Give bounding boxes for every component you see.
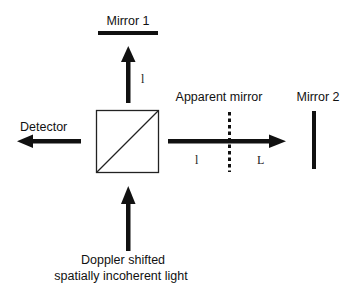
detector-label: Detector (20, 120, 67, 134)
arrow-to-mirror-2 (168, 135, 286, 149)
apparent-mirror: Apparent mirror (176, 90, 263, 172)
beam-splitter (97, 111, 159, 173)
mirror-2: Mirror 2 (296, 90, 339, 169)
apparent-mirror-label: Apparent mirror (176, 90, 263, 104)
arrow-to-detector: Detector (17, 120, 81, 148)
arm-2-length-l-label: l (195, 153, 199, 167)
mirror-2-label: Mirror 2 (296, 90, 339, 104)
interferometer-diagram: Mirror 1 l Detector Apparent mirror l L … (0, 0, 348, 295)
arrow-to-mirror-1 (121, 46, 136, 103)
source-label-line-2: spatially incoherent light (54, 269, 188, 283)
mirror-1: Mirror 1 (98, 14, 158, 35)
arm-1-length-label: l (141, 72, 145, 86)
mirror-1-label: Mirror 1 (106, 14, 149, 28)
arrow-from-source (121, 186, 136, 251)
source-label-line-1: Doppler shifted (81, 253, 165, 267)
arm-2-length-L-label: L (257, 153, 264, 167)
